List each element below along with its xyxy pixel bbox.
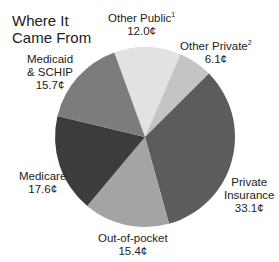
label-name-line-1: Private [224, 176, 275, 189]
label-value: 12.0¢ [108, 25, 175, 38]
chart-title: Where It Came From [12, 12, 91, 46]
label-name: Other Public [108, 12, 171, 24]
label-medicaid-schip: Medicaid & SCHIP 15.7¢ [27, 53, 73, 92]
label-value: 15.7¢ [27, 79, 73, 92]
footnote-marker: 1 [171, 11, 175, 18]
title-line-1: Where It [12, 12, 91, 29]
label-name: Out-of-pocket [98, 232, 168, 245]
label-name-line-2: Insurance [224, 189, 275, 202]
label-other-public: Other Public1 12.0¢ [108, 12, 175, 38]
label-name: Medicare [19, 170, 66, 183]
label-value: 15.4¢ [98, 245, 168, 258]
footnote-marker: 2 [248, 39, 252, 46]
label-value: 33.1¢ [224, 202, 275, 215]
label-name-line-1: Medicaid [27, 53, 73, 66]
label-name-line-2: & SCHIP [27, 66, 73, 79]
label-value: 17.6¢ [19, 183, 66, 196]
label-other-private: Other Private2 6.1¢ [180, 40, 252, 66]
label-name: Other Private [180, 40, 248, 52]
label-private-insurance: Private Insurance 33.1¢ [224, 176, 275, 215]
label-out-of-pocket: Out-of-pocket 15.4¢ [98, 232, 168, 258]
label-value: 6.1¢ [180, 53, 252, 66]
label-medicare: Medicare 17.6¢ [19, 170, 66, 196]
title-line-2: Came From [12, 29, 91, 46]
